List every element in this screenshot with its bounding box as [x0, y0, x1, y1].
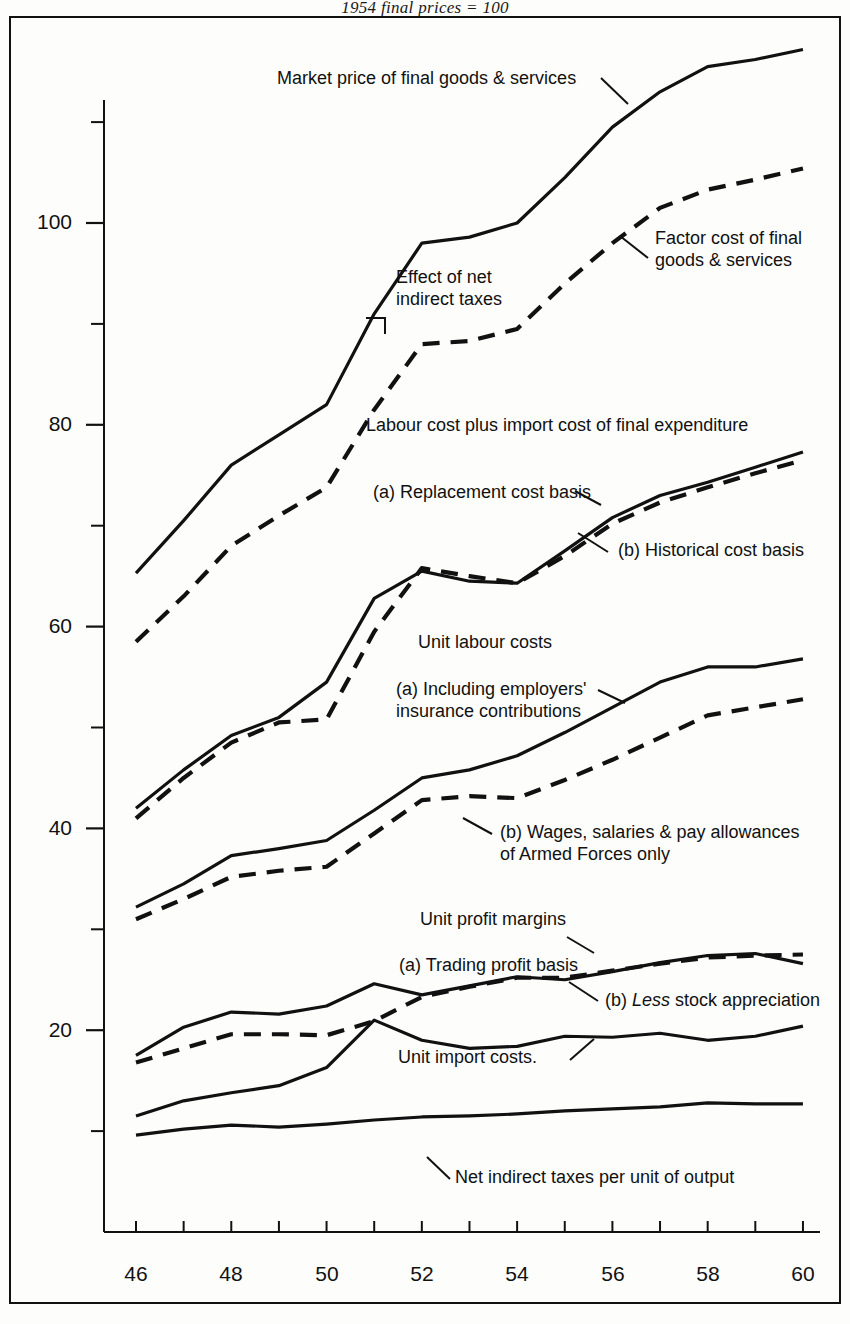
- annotation-unit-import-costs: Unit import costs.: [398, 1047, 537, 1069]
- annotation-wages-salaries-line1: (b) Wages, salaries & pay allowances: [500, 822, 799, 844]
- annotation-effect-net-taxes-line2: indirect taxes: [396, 289, 502, 311]
- annotation-including-employers: (a) Including employers' insurance contr…: [396, 679, 587, 723]
- annotation-effect-net-taxes-line1: Effect of net: [396, 267, 502, 289]
- xtick-label-56: 56: [593, 1262, 633, 1286]
- annotation-market-price: Market price of final goods & services: [277, 68, 576, 90]
- leader-factor-cost: [620, 236, 648, 258]
- annotation-wages-salaries-line2: of Armed Forces only: [500, 844, 799, 866]
- chart-plot-area: [0, 0, 850, 1324]
- leader-trading-profit: [567, 937, 594, 953]
- ytick-label-80: 80: [28, 412, 72, 436]
- annotation-unit-labour-costs: Unit labour costs: [418, 632, 552, 654]
- annotation-replacement-cost: (a) Replacement cost basis: [373, 482, 591, 504]
- xtick-label-58: 58: [688, 1262, 728, 1286]
- annotation-net-indirect-taxes: Net indirect taxes per unit of output: [455, 1167, 734, 1189]
- ytick-label-40: 40: [28, 816, 72, 840]
- annotation-wages-salaries: (b) Wages, salaries & pay allowances of …: [500, 822, 799, 866]
- ytick-label-60: 60: [28, 614, 72, 638]
- annotation-trading-profit: (a) Trading profit basis: [399, 955, 578, 977]
- leader-market-price: [601, 78, 628, 104]
- annotation-effect-net-taxes: Effect of net indirect taxes: [396, 267, 502, 311]
- annotation-including-employers-line1: (a) Including employers': [396, 679, 587, 701]
- xtick-label-60: 60: [783, 1262, 823, 1286]
- xtick-label-46: 46: [116, 1262, 156, 1286]
- leader-net-indirect-taxes: [427, 1157, 450, 1179]
- annotation-less-stock-suffix: stock appreciation: [670, 990, 820, 1010]
- annotation-less-stock: (b) Less stock appreciation: [605, 990, 820, 1012]
- annotation-factor-cost-line1: Factor cost of final: [655, 228, 802, 250]
- chart-page: 1954 final prices = 100 100 80 60 40 20 …: [0, 0, 850, 1324]
- annotation-factor-cost: Factor cost of final goods & services: [655, 228, 802, 272]
- annotation-labour-plus-import: Labour cost plus import cost of final ex…: [366, 415, 748, 437]
- annotation-less-stock-prefix: (b): [605, 990, 632, 1010]
- annotation-factor-cost-line2: goods & services: [655, 250, 802, 272]
- annotation-less-stock-ital: Less: [632, 990, 670, 1010]
- ytick-label-20: 20: [28, 1018, 72, 1042]
- annotation-historical-cost: (b) Historical cost basis: [618, 540, 804, 562]
- annotation-unit-profit-margins: Unit profit margins: [420, 909, 566, 931]
- xtick-label-48: 48: [211, 1262, 251, 1286]
- annotation-leader-lines: [366, 78, 648, 1179]
- series-line-2: [136, 452, 803, 808]
- series-line-9: [136, 1103, 803, 1135]
- xtick-label-54: 54: [497, 1262, 537, 1286]
- xtick-label-50: 50: [307, 1262, 347, 1286]
- annotation-including-employers-line2: insurance contributions: [396, 701, 587, 723]
- ytick-label-100: 100: [28, 210, 72, 234]
- leader-wages-salaries: [463, 818, 492, 834]
- leader-less-stock: [569, 982, 598, 1001]
- leader-including-employers: [598, 690, 625, 703]
- xtick-label-52: 52: [402, 1262, 442, 1286]
- leader-unit-import-costs: [570, 1039, 594, 1060]
